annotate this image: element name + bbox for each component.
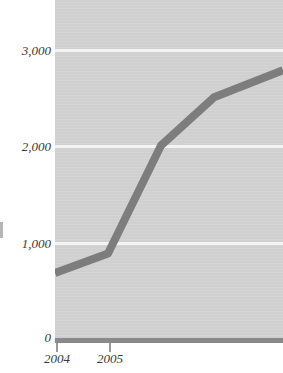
line-chart: 3,000 2,000 1,000 0 2004 2005 — [0, 0, 283, 373]
x-axis-line — [55, 338, 283, 343]
y-axis-label-1000: 1,000 — [5, 237, 51, 250]
series-line-1 — [55, 70, 283, 273]
y-axis-label-2000: 2,000 — [5, 140, 51, 153]
x-axis-label-2004: 2004 — [44, 352, 70, 366]
y-axis-label-3000: 3,000 — [5, 44, 51, 57]
x-axis-label-2005: 2005 — [97, 352, 123, 366]
plot-area — [55, 0, 283, 341]
series-line-group — [55, 0, 283, 341]
y-axis-label-0: 0 — [5, 331, 51, 344]
axis-title-fragment — [0, 222, 3, 238]
